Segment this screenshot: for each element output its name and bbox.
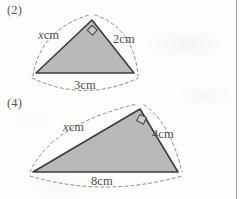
side-label-x-figure-2: xcm (38, 28, 59, 43)
side-label-2cm-figure-2: 2cm (113, 32, 135, 47)
side-label-x-figure-4: xcm (63, 120, 84, 135)
worksheet-page: (2) (4) (0, 0, 247, 199)
side-label-4cm-figure-4: 4cm (152, 127, 174, 142)
side-label-8cm-figure-4: 8cm (91, 174, 113, 189)
side-label-3cm-figure-2: 3cm (74, 78, 96, 93)
right-margin (237, 0, 247, 199)
page-vertical-rule (236, 0, 237, 199)
